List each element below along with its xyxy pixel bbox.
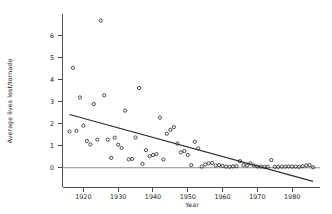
x-tick-label: 1980	[284, 193, 300, 201]
y-tick-label: 6	[50, 32, 54, 40]
x-axis-title: Year	[184, 201, 199, 208]
x-tick-label: 1970	[249, 193, 265, 201]
y-tick-label: 4	[50, 76, 54, 84]
x-tick-label: 1940	[145, 193, 161, 201]
y-tick-label: 2	[50, 120, 54, 128]
y-tick-label: 3	[50, 98, 54, 106]
y-tick-label: 1	[50, 142, 54, 150]
plot-canvas: 0123456 1920193019401950196019701980 Yea…	[0, 0, 332, 214]
x-tick-label: 1920	[75, 193, 91, 201]
scatter-chart: 0123456 1920193019401950196019701980 Yea…	[0, 0, 332, 214]
y-tick-label: 0	[50, 164, 54, 172]
y-axis-title: Average lives lost/tornado	[6, 59, 14, 144]
y-tick-label: 5	[50, 54, 54, 62]
x-tick-label: 1930	[110, 193, 126, 201]
x-tick-label: 1950	[180, 193, 196, 201]
x-tick-label: 1960	[214, 193, 230, 201]
